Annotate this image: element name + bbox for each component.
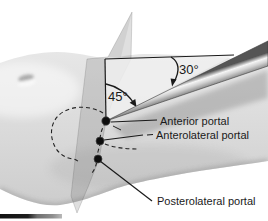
angle-30-label: 30° [179,62,199,77]
anterolateral-portal-dot [96,137,104,145]
anterior-portal-label: Anterior portal [160,115,229,127]
anterior-portal-dot [102,117,110,125]
arthroscopy-portals-figure: 30° 45° Anterior portal Anterolateral po… [0,0,268,221]
cropped-panel-bar [0,214,62,219]
posterolateral-portal-dot [94,155,102,163]
anterolateral-portal-label: Anterolateral portal [156,129,249,141]
portals-diagram-canvas: 30° 45° Anterior portal Anterolateral po… [0,0,268,221]
posterolateral-portal-label: Posterolateral portal [157,195,255,207]
angle-45-label: 45° [108,89,128,104]
